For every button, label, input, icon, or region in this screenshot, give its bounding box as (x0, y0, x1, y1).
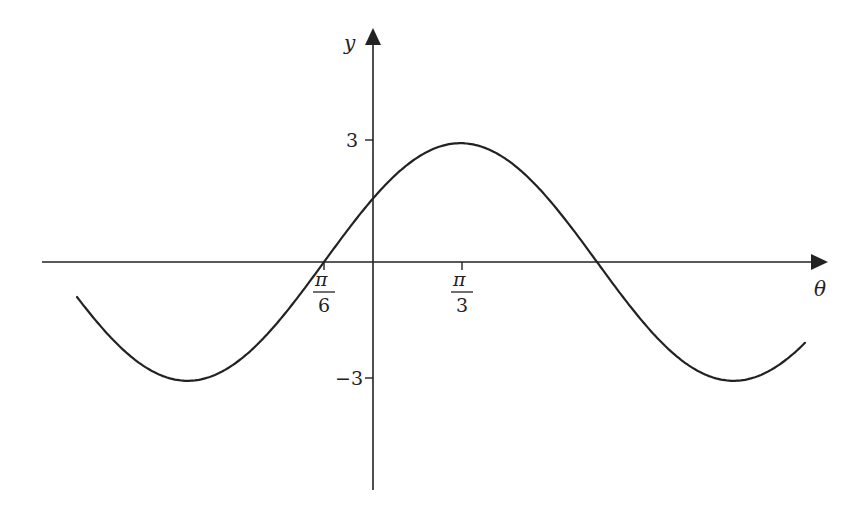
fraction-denominator: 6 (318, 294, 330, 316)
fraction-denominator: 3 (456, 294, 468, 316)
x-axis-arrow-icon (811, 254, 828, 270)
sine-graph: y θ 3 −3 π 6 π 3 (0, 0, 866, 516)
x-tick-label-pi-3: π 3 (451, 268, 473, 316)
y-tick-label-neg3: −3 (335, 367, 363, 389)
y-axis-label: y (343, 31, 356, 55)
x-axis-label: θ (814, 277, 826, 301)
fraction-numerator: π (314, 268, 328, 290)
y-axis-arrow-icon (365, 28, 381, 45)
y-tick-label-3: 3 (346, 129, 358, 151)
fraction-numerator: π (452, 268, 466, 290)
x-tick-label-pi-6: π 6 (313, 268, 335, 316)
